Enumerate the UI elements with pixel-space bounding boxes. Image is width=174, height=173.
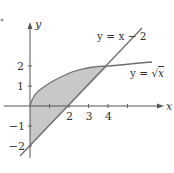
y-axis-label: y [34,18,42,31]
line-label: y = x − 2 [96,30,146,42]
svg-text:y = √x: y = √x [129,67,164,79]
x-tick-label-2: 2 [66,110,73,123]
y-tick-label-1: 1 [17,80,24,93]
x-tick-label-4: 4 [105,110,112,123]
y-tick-label-2: 2 [17,60,24,73]
sqrt-label: y = √x [129,67,164,79]
y-tick-label-neg2: −2 [9,140,25,153]
x-axis [4,104,164,109]
x-tick-label-3: 3 [86,110,93,123]
corner-mark [1,19,4,22]
region-diagram: x y 2 3 4 2 1 −1 −2 y = x − 2 y = √x [0,0,174,173]
y-tick-label-neg1: −1 [9,120,25,133]
x-axis-label: x [166,100,173,113]
